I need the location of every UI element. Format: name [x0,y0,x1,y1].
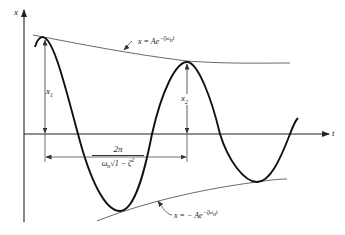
x1-label: x1 [46,87,53,98]
sqrt-term: √1 − ζ [110,159,131,168]
lower-envelope-leader [158,201,172,215]
x2-label: x2 [181,94,188,105]
lower-envelope-exponent-t: t [216,209,218,215]
t-axis-label: t [332,129,335,138]
x2-subscript: 2 [185,99,188,105]
y-axis-label: x [14,8,18,17]
period-denominator: ωn√1 − ζ2 [92,156,144,169]
zeta-exponent: 2 [131,157,134,163]
lower-envelope-exponent: −ζω [203,209,213,215]
lower-envelope-base: x = − Ae [174,211,203,220]
x1-subscript: 1 [50,92,53,98]
upper-envelope-exponent: −ζω [159,35,169,41]
lower-envelope-equation: x = − Ae−ζωnt [174,209,218,220]
damped-period-formula: 2π ωn√1 − ζ2 [92,145,144,169]
upper-envelope-exponent-t: t [173,35,175,41]
damped-vibration-figure: x t x1 x2 x = Ae−ζωnt x = − Ae−ζωnt 2π ω… [0,0,345,235]
upper-envelope-leader [124,41,132,50]
period-numerator: 2π [92,145,144,156]
upper-envelope-equation: x = Ae−ζωnt [138,35,174,46]
upper-envelope-base: x = Ae [138,37,159,46]
